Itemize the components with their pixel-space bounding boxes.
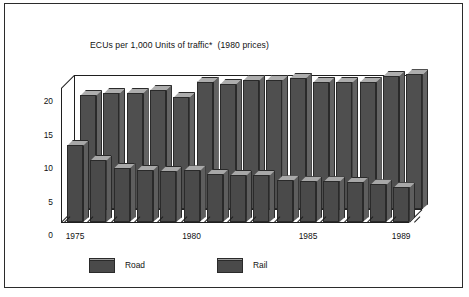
bar-road-1976	[90, 160, 106, 222]
x-tick-label-1985: 1985	[288, 231, 328, 241]
bar-face	[207, 174, 223, 222]
bar-side	[269, 170, 275, 222]
legend-swatch-top-rail	[217, 258, 243, 261]
x-tick-label-1989: 1989	[381, 231, 421, 241]
bar-road-1975	[67, 145, 83, 222]
x-tick-label-1975: 1975	[55, 231, 95, 241]
y-tick-label-15: 15	[27, 130, 53, 140]
bar-road-1983	[253, 175, 269, 222]
x-tick-label-1980: 1980	[172, 231, 212, 241]
plot-area: 051015201975198019851989	[5, 4, 469, 297]
y-axis-front	[61, 88, 62, 222]
bar-side	[106, 155, 112, 222]
bar-side	[339, 176, 345, 222]
back-wall-top	[74, 75, 422, 76]
bar-side	[153, 165, 159, 222]
bar-road-1978	[137, 170, 153, 222]
bar-road-1979	[160, 171, 176, 222]
bar-side	[130, 163, 136, 222]
bar-side	[176, 166, 182, 222]
bar-face	[114, 168, 130, 222]
y-tick-label-20: 20	[27, 96, 53, 106]
bar-face	[160, 171, 176, 222]
y-tick-label-10: 10	[27, 163, 53, 173]
bar-side	[316, 176, 322, 222]
bar-road-1977	[114, 168, 130, 222]
bar-road-1980	[184, 170, 200, 222]
legend-swatch-top-road	[89, 258, 115, 261]
y-tick-label-5: 5	[27, 197, 53, 207]
bar-side	[386, 179, 392, 222]
bar-face	[253, 175, 269, 222]
bar-road-1981	[207, 174, 223, 222]
legend-swatch-rail	[217, 258, 243, 273]
y-tick-label-0: 0	[27, 230, 53, 240]
bar-side	[363, 177, 369, 222]
bar-side	[200, 165, 206, 222]
bar-side	[246, 170, 252, 222]
bar-face	[137, 170, 153, 222]
bar-side	[223, 169, 229, 222]
bar-face	[90, 160, 106, 222]
legend-swatch-road	[89, 258, 115, 273]
bar-side	[422, 69, 428, 209]
bar-side	[293, 175, 299, 222]
bar-side	[83, 140, 89, 222]
y-axis-depth-top	[61, 75, 75, 89]
legend-label-road: Road	[125, 260, 145, 270]
legend-label-rail: Rail	[253, 260, 267, 270]
floor-front-edge	[61, 222, 409, 223]
bar-face	[184, 170, 200, 222]
bar-side	[409, 182, 415, 222]
bar-face	[67, 145, 83, 222]
chart-frame: ECUs per 1,000 Units of traffic* (1980 p…	[4, 3, 463, 288]
